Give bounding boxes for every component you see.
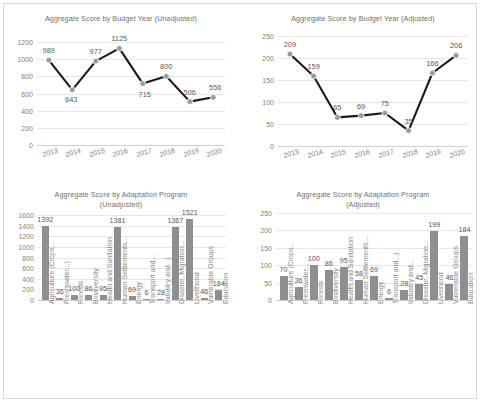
bar-value-label: 100 [308,254,320,263]
x-axis-category-label: Energy [377,282,384,304]
x-axis-category-label: Education [467,273,474,304]
gridline [276,213,472,214]
x-axis-category-label: Human Settlements... [362,237,369,304]
y-axis-tick-label: 200 [260,227,272,234]
x-axis-category-label: Health and Sanitation [106,237,113,304]
x-axis-category-label: Livelihood [193,272,200,304]
x-axis-category-label: Education [222,273,229,304]
x-axis-category-label: Energy [135,282,142,304]
y-axis-tick-label: 1400 [18,222,34,229]
x-axis-category-label: Disaster, Migration... [178,240,185,304]
y-axis-tick-label: 50 [264,279,272,286]
data-point-label: 35 [405,117,413,126]
x-axis-category-label: Vulnerable Groups [452,246,459,304]
chart-panel-program-unadjusted: Aggregate Score by Adaptation Program (U… [0,180,242,405]
x-axis-category-label: Industry and... [407,260,414,304]
x-axis-category-label: Agriculture (Crops... [287,242,294,304]
y-axis-tick-label: 1000 [18,243,34,250]
data-point-label: 75 [381,99,389,108]
data-point-label: 977 [90,47,102,56]
gridline [276,230,472,231]
y-axis-labels: 02004006008001000120014001600 [2,180,34,405]
y-axis-tick-label: 0 [30,297,34,304]
data-point-label: 1125 [111,34,127,43]
data-point-label: 556 [209,83,221,92]
bar [114,227,121,300]
x-axis-category-label: Agriculture (Crops... [48,242,55,304]
data-point-label: 506 [184,88,196,97]
bar-value-label: 1521 [182,208,198,217]
chart-panel-program-adjusted: Aggregate Score by Adaptation Program (A… [242,180,484,405]
x-axis-category-label: Human Settlements... [121,237,128,304]
y-axis-tick-label: 1600 [18,212,34,219]
y-axis-tick-label: 400 [22,275,34,282]
plot-area-budget-adjusted: 0501001502002502091596569753516620620132… [242,0,484,180]
plot-area-program-adjusted: 05010015020025070Agriculture (Crops...36… [242,180,484,405]
bar-value-label: 6 [387,287,391,296]
plot-area-budget-unadjusted: 0200400600800100012009896439771125715800… [0,0,242,180]
y-axis-tick-label: 250 [260,210,272,217]
y-axis-tick-label: 0 [268,297,272,304]
plot-area-program-unadjusted: 020040060080010001200140016001392Agricul… [0,180,242,405]
y-axis-tick-label: 600 [22,265,34,272]
y-axis-tick-label: 200 [22,286,34,293]
x-axis-category-label: Transport and... [149,255,156,304]
x-axis-category-label: Biodiversity [92,268,99,304]
x-axis-category-label: Freshwater... [302,264,309,304]
chart-panel-budget-adjusted: Aggregate Score by Budget Year (Adjusted… [242,0,484,180]
data-point-label: 206 [450,41,462,50]
x-axis-category-label: Vulnerable Groups [207,246,214,304]
y-axis-tick-label: 100 [260,262,272,269]
x-axis-category-label: Health and Sanitation [347,237,354,304]
bar-value-label: 6 [144,288,148,297]
data-point-label: 166 [426,59,438,68]
bar-value-label: 184 [458,225,470,234]
data-point-label: 65 [333,103,341,112]
bar-value-label: 86 [325,259,333,268]
gridline [38,247,226,248]
data-point-label: 159 [307,62,319,71]
y-axis-tick-label: 150 [260,244,272,251]
data-point-label: 643 [65,95,77,104]
gridline [276,248,472,249]
charts-grid: Aggregate Score by Budget Year (Unadjust… [0,0,484,405]
y-axis-tick-label: 1200 [18,233,34,240]
bar-value-label: 199 [428,220,440,229]
data-point-label: 69 [357,102,365,111]
x-axis-category-label: Livelihood [437,272,444,304]
x-axis-category-label: Forests [317,281,324,304]
chart-panel-budget-unadjusted: Aggregate Score by Budget Year (Unadjust… [0,0,242,180]
bar-value-label: 69 [370,265,378,274]
data-point-label: 209 [284,40,296,49]
gridline [38,258,226,259]
x-axis-category-label: Disaster, Migration... [422,240,429,304]
x-axis-category-label: Transport and...) [392,253,399,305]
x-axis-category-label: Forests [77,281,84,304]
y-axis-labels: 050100150200250 [242,180,272,405]
gridline [38,226,226,227]
data-point-label: 989 [43,46,55,55]
data-point-label: 800 [160,62,172,71]
gridline [38,236,226,237]
bar-value-label: 1367 [167,216,183,225]
bar-value-label: 1381 [110,216,126,225]
bar-value-label: 1392 [37,215,53,224]
x-axis-category-label: Biodiversity [332,268,339,304]
x-axis-category-label: Industry and...) [164,257,171,304]
data-point-label: 715 [139,90,151,99]
y-axis-tick-label: 800 [22,254,34,261]
x-axis-category-label: Freshwater...) [63,261,70,304]
